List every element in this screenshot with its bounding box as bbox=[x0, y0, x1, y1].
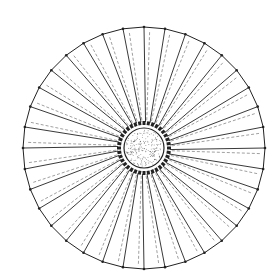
stippled-core bbox=[124, 128, 164, 168]
radial-diagram bbox=[0, 0, 275, 280]
